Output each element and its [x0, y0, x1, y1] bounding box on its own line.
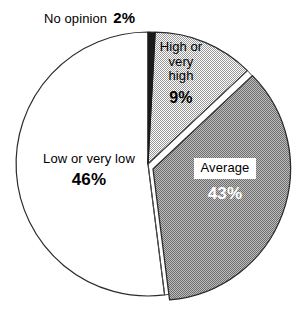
- slice-label-high-line2: very: [150, 55, 212, 70]
- slice-label-no-opinion-name: No opinion: [44, 12, 107, 27]
- slice-label-low-value: 46%: [33, 170, 145, 189]
- slice-label-average: Average 43%: [190, 158, 260, 203]
- pie-chart: No opinion 2% High or very high 9% Low o…: [0, 0, 306, 322]
- slice-label-low-or-very-low: Low or very low 46%: [33, 152, 145, 189]
- slice-label-average-name: Average: [194, 158, 257, 179]
- slice-label-high-or-very-high: High or very high 9%: [150, 40, 212, 107]
- slice-label-high-value: 9%: [150, 89, 212, 107]
- slice-label-average-value: 43%: [190, 184, 260, 203]
- slice-label-high-line1: High or: [150, 40, 212, 55]
- slice-label-no-opinion: No opinion 2%: [44, 10, 135, 27]
- slice-label-low-name: Low or very low: [33, 152, 145, 167]
- slice-label-no-opinion-value: 2%: [113, 10, 135, 27]
- slice-label-high-line3: high: [150, 69, 212, 84]
